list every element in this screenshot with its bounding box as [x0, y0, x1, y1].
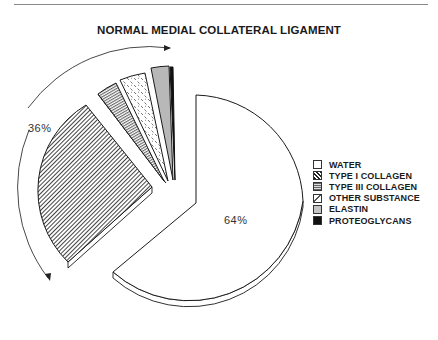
legend: WATER TYPE I COLLAGEN TYPE III COLLAGEN … — [313, 159, 420, 226]
swatch-diagonal-hatch-icon — [313, 171, 322, 180]
swatch-gray-icon — [313, 205, 322, 214]
swatch-black-icon — [313, 216, 322, 225]
water-percent-label: 64% — [224, 214, 248, 226]
legend-item-proteoglycans: PROTEOGLYCANS — [313, 215, 420, 226]
legend-item-elastin: ELASTIN — [313, 204, 420, 215]
swatch-horizontal-lines-icon — [313, 182, 322, 191]
legend-item-water: WATER — [313, 159, 420, 170]
swatch-white-icon — [313, 160, 322, 169]
legend-item-type-iii-collagen: TYPE III COLLAGEN — [313, 181, 420, 192]
legend-item-other-substance: OTHER SUBSTANCE — [313, 193, 420, 204]
group-percent-label: 36% — [28, 122, 52, 134]
legend-item-type-i-collagen: TYPE I COLLAGEN — [313, 170, 420, 181]
swatch-dash-pattern-icon — [313, 194, 322, 203]
